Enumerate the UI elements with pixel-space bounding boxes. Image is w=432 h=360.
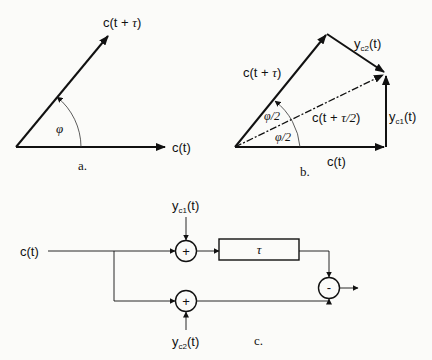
label-c-t: c(t) — [172, 140, 191, 155]
label-yc1: yc1(t) — [172, 198, 199, 215]
label-yc1: yc1(t) — [389, 109, 416, 126]
subtractor-symbol: - — [327, 280, 331, 295]
label-yc2: yc2(t) — [172, 334, 199, 351]
delay-block-label: τ — [257, 242, 263, 257]
signal-line-sum2-to-diff — [197, 299, 329, 301]
label-half-phi-upper: φ/2 — [264, 109, 280, 123]
diagram-c: c(t) + yc1(t) τ - + yc2(t) c. — [20, 198, 358, 351]
vector-c-t-plus-half-tau — [235, 75, 383, 147]
signal-line-branch — [114, 251, 175, 301]
caption-c: c. — [254, 333, 263, 348]
diagram-b: c(t) c(t + τ) c(t + τ/2) yc2(t) yc1(t) φ… — [235, 34, 416, 179]
label-c-t-plus-tau: c(t + τ) — [103, 15, 141, 30]
figure-canvas: c(t) c(t + τ) φ a. c(t) c(t + τ) c(t + τ… — [0, 0, 432, 360]
label-phi: φ — [56, 121, 63, 136]
caption-b: b. — [300, 164, 310, 179]
label-input-c-t: c(t) — [20, 244, 39, 259]
caption-a: a. — [78, 158, 87, 173]
label-c-t-plus-half-tau: c(t + τ/2) — [312, 110, 360, 125]
label-yc2: yc2(t) — [354, 36, 381, 53]
label-c-t: c(t) — [327, 154, 346, 169]
label-c-t-plus-tau: c(t + τ) — [243, 65, 281, 80]
label-half-phi-lower: φ/2 — [275, 130, 291, 144]
summer-1-symbol: + — [182, 244, 190, 259]
diagram-a: c(t) c(t + τ) φ a. — [16, 15, 191, 173]
signal-line-delay-to-diff — [299, 251, 329, 277]
summer-2-symbol: + — [182, 294, 190, 309]
